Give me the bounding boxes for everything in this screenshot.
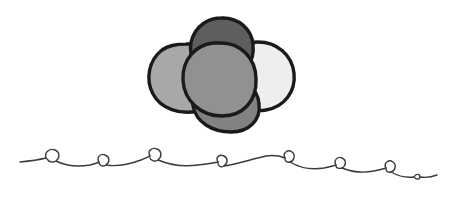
illustration-canvas: Hand-drawn cluster of five overlapping b… [0,0,450,200]
blob-center [183,43,256,116]
artboard-svg: Hand-drawn cluster of five overlapping b… [0,0,450,200]
